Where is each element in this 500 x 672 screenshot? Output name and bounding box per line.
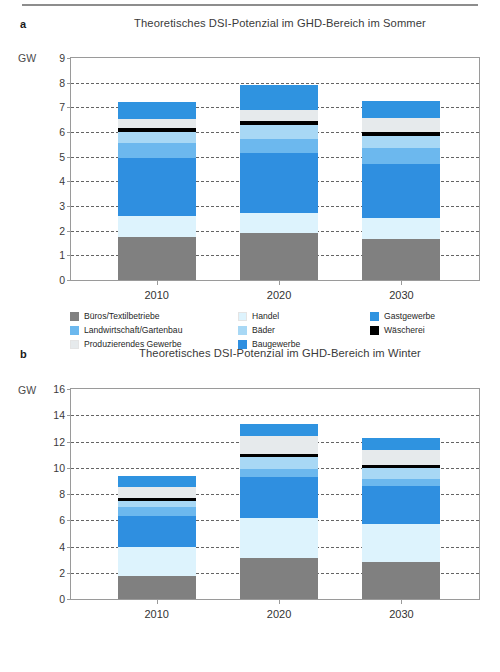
- legend-item[interactable]: Landwirtschaft/Gartenbau: [70, 324, 238, 336]
- bar-segment: [240, 85, 318, 110]
- chart-title-b: Theoretisches DSI-Potenzial im GHD-Berei…: [70, 347, 490, 359]
- legend-swatch-icon: [238, 312, 247, 321]
- bar-segment: [118, 487, 196, 498]
- y-axis-tick-mark: [67, 157, 71, 158]
- bar-segment: [118, 516, 196, 547]
- bar-segment: [240, 436, 318, 454]
- bar-segment: [362, 148, 440, 164]
- bar-2030[interactable]: [362, 101, 440, 280]
- legend-swatch-icon: [70, 326, 79, 335]
- bar-segment: [240, 469, 318, 477]
- y-axis-unit-b: GW: [18, 384, 36, 396]
- bar-segment: [240, 153, 318, 213]
- bar-segment: [118, 158, 196, 216]
- legend-label: Landwirtschaft/Gartenbau: [84, 326, 182, 335]
- legend-swatch-icon: [238, 326, 247, 335]
- bar-segment: [362, 486, 440, 524]
- bar-2020[interactable]: [240, 424, 318, 599]
- y-axis-tick-label: 3: [59, 200, 65, 212]
- y-axis-tick-mark: [67, 132, 71, 133]
- y-axis-tick-label: 0: [59, 274, 65, 286]
- y-axis-tick-mark: [67, 442, 71, 443]
- x-axis-tick-mark: [157, 280, 158, 285]
- y-axis-tick-mark: [67, 231, 71, 232]
- plot-area-a: 0123456789201020202030: [70, 57, 480, 281]
- chart-panel-a: a Theoretisches DSI-Potenzial im GHD-Ber…: [0, 12, 500, 340]
- bar-segment: [118, 576, 196, 599]
- bar-segment: [240, 457, 318, 469]
- bar-segment: [240, 233, 318, 280]
- x-axis-tick-mark: [157, 599, 158, 604]
- bar-segment: [362, 118, 440, 132]
- bar-segment: [240, 213, 318, 233]
- gridline: [71, 83, 479, 84]
- legend-item[interactable]: Gastgewerbe: [370, 310, 490, 322]
- x-axis-tick-label-2010: 2010: [97, 289, 217, 301]
- gridline: [71, 415, 479, 416]
- y-axis-tick-label: 12: [53, 436, 65, 448]
- bar-2010[interactable]: [118, 102, 196, 280]
- bar-segment: [118, 476, 196, 487]
- bar-segment: [240, 125, 318, 140]
- y-axis-tick-mark: [67, 494, 71, 495]
- y-axis-tick-label: 8: [59, 488, 65, 500]
- x-axis-tick-label-2030: 2030: [341, 289, 461, 301]
- plot-area-b: 0246810121416201020202030: [70, 388, 480, 600]
- bar-segment: [362, 524, 440, 561]
- bar-segment: [118, 143, 196, 158]
- legend-label: Handel: [252, 312, 279, 321]
- chart-title-a: Theoretisches DSI-Potenzial im GHD-Berei…: [70, 17, 490, 29]
- bar-segment: [240, 477, 318, 518]
- y-axis-tick-mark: [67, 468, 71, 469]
- y-axis-tick-label: 5: [59, 151, 65, 163]
- y-axis-tick-label: 14: [53, 409, 65, 421]
- x-axis-tick-label-2010: 2010: [97, 608, 217, 620]
- bar-segment: [362, 562, 440, 599]
- bar-segment: [118, 216, 196, 237]
- bar-segment: [240, 518, 318, 558]
- x-axis-tick-label-2030: 2030: [341, 608, 461, 620]
- bar-2020[interactable]: [240, 85, 318, 280]
- y-axis-tick-mark: [67, 255, 71, 256]
- legend-swatch-icon: [70, 312, 79, 321]
- bar-segment: [362, 218, 440, 239]
- y-axis-tick-label: 6: [59, 126, 65, 138]
- bar-2030[interactable]: [362, 438, 440, 599]
- y-axis-tick-label: 4: [59, 175, 65, 187]
- y-axis-tick-mark: [67, 573, 71, 574]
- legend-swatch-icon: [370, 326, 379, 335]
- legend-item[interactable]: Büros/Textilbetriebe: [70, 310, 238, 322]
- x-axis-tick-label-2020: 2020: [219, 608, 339, 620]
- y-axis-tick-mark: [67, 389, 71, 390]
- y-axis-unit-a: GW: [18, 52, 36, 64]
- y-axis-tick-label: 7: [59, 101, 65, 113]
- y-axis-tick-label: 16: [53, 383, 65, 395]
- y-axis-tick-label: 2: [59, 225, 65, 237]
- y-axis-tick-mark: [67, 107, 71, 108]
- header-rule: [22, 4, 478, 6]
- panel-letter-b: b: [20, 348, 27, 360]
- y-axis-tick-mark: [67, 181, 71, 182]
- y-axis-tick-label: 8: [59, 77, 65, 89]
- chart-panel-b: b Theoretisches DSI-Potenzial im GHD-Ber…: [0, 342, 500, 672]
- legend-item[interactable]: Wäscherei: [370, 324, 490, 336]
- bar-segment: [362, 101, 440, 118]
- y-axis-tick-mark: [67, 547, 71, 548]
- legend-label: Gastgewerbe: [384, 312, 435, 321]
- y-axis-tick-label: 2: [59, 567, 65, 579]
- y-axis-tick-mark: [67, 83, 71, 84]
- y-axis-tick-mark: [67, 599, 71, 600]
- y-axis-tick-mark: [67, 280, 71, 281]
- y-axis-tick-mark: [67, 206, 71, 207]
- legend-item[interactable]: Bäder: [238, 324, 370, 336]
- y-axis-tick-label: 6: [59, 514, 65, 526]
- legend-item[interactable]: Handel: [238, 310, 370, 322]
- bar-segment: [362, 136, 440, 148]
- y-axis-tick-label: 9: [59, 52, 65, 64]
- bar-segment: [118, 119, 196, 129]
- y-axis-tick-mark: [67, 58, 71, 59]
- bar-2010[interactable]: [118, 476, 196, 599]
- y-axis-tick-label: 1: [59, 249, 65, 261]
- bar-segment: [118, 547, 196, 577]
- x-axis-tick-mark: [279, 599, 280, 604]
